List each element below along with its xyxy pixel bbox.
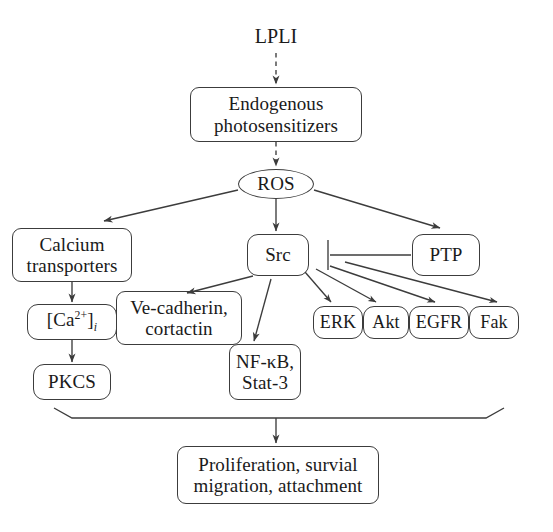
edge-ros-calcium-transporters [104, 190, 238, 221]
edge-src-akt [316, 269, 376, 302]
node-calcium-ion: [Ca2+]i [27, 304, 117, 340]
node-ve-cadherin-cortactin-label: Ve-cadherin, cortactin [130, 297, 228, 340]
node-outcomes-label: Proliferation, survial migration, attach… [194, 454, 363, 497]
node-nfkb-stat3-label: NF-κB, Stat-3 [236, 351, 294, 394]
edge-src-erk [305, 272, 331, 302]
node-egfr: EGFR [409, 306, 469, 339]
node-akt-label: Akt [372, 312, 399, 332]
node-pkcs: PKCS [33, 364, 111, 400]
node-src: Src [247, 234, 309, 276]
node-lpli-label: LPLI [255, 25, 298, 47]
node-fak-label: Fak [480, 312, 507, 332]
node-erk-label: ERK [320, 312, 356, 332]
node-ros-label: ROS [257, 173, 294, 194]
node-pkcs-label: PKCS [48, 371, 96, 392]
node-akt: Akt [363, 306, 409, 339]
node-calcium-transporters-label: Calcium transporters [27, 234, 118, 277]
node-calcium-transporters: Calcium transporters [12, 228, 132, 282]
node-src-label: Src [265, 244, 291, 265]
node-endogenous-photosensitizers-label: Endogenous photosensitizers [214, 93, 338, 136]
pathway-diagram: LPLI Endogenous photosensitizers ROS Cal… [0, 0, 553, 532]
node-erk: ERK [313, 306, 363, 339]
node-ptp-label: PTP [429, 244, 462, 265]
node-lpli: LPLI [238, 22, 314, 50]
node-ve-cadherin-cortactin: Ve-cadherin, cortactin [116, 291, 242, 345]
node-egfr-label: EGFR [416, 312, 462, 332]
collecting-brace [54, 408, 504, 418]
node-fak: Fak [469, 306, 519, 339]
edge-src-nfkb [254, 279, 271, 341]
node-outcomes: Proliferation, survial migration, attach… [177, 446, 379, 504]
node-nfkb-stat3: NF-κB, Stat-3 [229, 344, 301, 400]
node-ptp: PTP [412, 234, 480, 276]
node-ros: ROS [238, 169, 314, 199]
node-calcium-ion-label: [Ca2+]i [47, 309, 97, 334]
edge-ros-ptp [314, 190, 440, 228]
node-endogenous-photosensitizers: Endogenous photosensitizers [190, 87, 362, 142]
